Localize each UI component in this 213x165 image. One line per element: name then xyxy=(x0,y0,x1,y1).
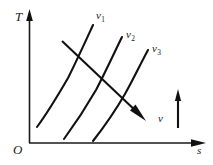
v-direction-arrow-label: v xyxy=(158,113,163,124)
v-direction-arrowhead xyxy=(175,89,181,101)
curve-v1 xyxy=(37,25,93,127)
curve-label-v3-subscript: 3 xyxy=(157,48,161,57)
figure-root: T O s v1 v2 v3 v xyxy=(0,0,213,165)
curve-label-v2-subscript: 2 xyxy=(131,34,135,43)
curve-label-v3: v3 xyxy=(152,43,161,57)
curve-label-v2: v2 xyxy=(126,29,135,43)
y-axis-arrowhead xyxy=(26,9,33,21)
process-arrow-shaft xyxy=(62,41,138,113)
x-axis-label: s xyxy=(197,145,201,156)
y-axis-group xyxy=(26,9,33,143)
origin-label: O xyxy=(13,143,22,156)
ts-diagram-canvas xyxy=(0,0,213,165)
curve-label-v1-subscript: 1 xyxy=(101,15,105,24)
v-direction-arrow xyxy=(175,89,181,128)
curve-label-v1: v1 xyxy=(96,10,105,24)
process-arrow xyxy=(62,41,146,121)
x-axis-group xyxy=(29,139,206,147)
y-axis-label: T xyxy=(15,10,22,23)
